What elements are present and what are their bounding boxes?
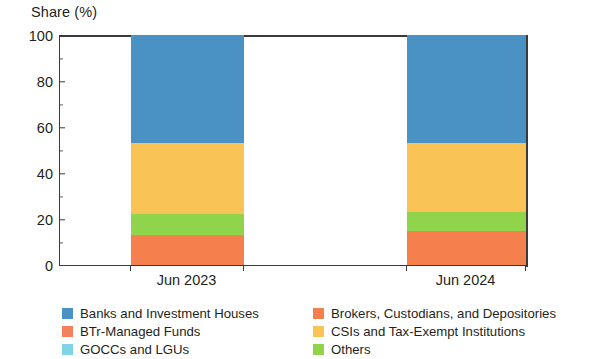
bar-jun-2024[interactable]: [407, 35, 526, 265]
legend-label: BTr-Managed Funds: [80, 325, 200, 338]
bar-segment[interactable]: [131, 143, 244, 214]
legend-row: BTr-Managed FundsCSIs and Tax-Exempt Ins…: [62, 322, 602, 340]
legend-row: Banks and Investment HousesBrokers, Cust…: [62, 304, 602, 322]
legend-swatch-icon: [313, 344, 324, 355]
x-tick-label: Jun 2024: [436, 272, 496, 288]
y-tick-label: 60: [7, 120, 53, 136]
legend-label: Banks and Investment Houses: [80, 307, 259, 320]
y-tick-label: 20: [7, 212, 53, 228]
legend-swatch-icon: [313, 326, 324, 337]
y-tick-label: 80: [7, 74, 53, 90]
legend-row: GOCCs and LGUsOthers: [62, 340, 602, 358]
stacked-bar-chart: Share (%) 100806040200 Jun 2023Jun 2024 …: [0, 0, 608, 359]
y-tick-label: 0: [7, 258, 53, 274]
x-tick-mark: [406, 266, 407, 271]
legend-item[interactable]: GOCCs and LGUs: [62, 340, 313, 358]
legend-item[interactable]: Others: [313, 340, 602, 358]
legend-label: Others: [331, 343, 371, 356]
bar-segment[interactable]: [131, 214, 244, 235]
legend-label: Brokers, Custodians, and Depositories: [331, 307, 556, 320]
bar-segment[interactable]: [407, 231, 526, 266]
y-axis-labels: 100806040200: [0, 0, 53, 359]
legend-item[interactable]: Banks and Investment Houses: [62, 304, 313, 322]
legend-item[interactable]: Brokers, Custodians, and Depositories: [313, 304, 602, 322]
x-tick-label: Jun 2023: [157, 272, 217, 288]
y-tick-label: 40: [7, 166, 53, 182]
legend-item[interactable]: CSIs and Tax-Exempt Institutions: [313, 322, 602, 340]
bar-segment[interactable]: [407, 212, 526, 230]
bar-segment[interactable]: [407, 35, 526, 143]
y-tick-label: 100: [7, 28, 53, 44]
bar-segment[interactable]: [131, 235, 244, 265]
legend-swatch-icon: [313, 308, 324, 319]
bar-segment[interactable]: [131, 35, 244, 143]
legend-swatch-icon: [62, 308, 73, 319]
plot-area: [59, 36, 527, 266]
x-tick-mark: [243, 266, 244, 271]
legend-swatch-icon: [62, 326, 73, 337]
bar-jun-2023[interactable]: [131, 35, 244, 265]
legend-swatch-icon: [62, 344, 73, 355]
bar-segment[interactable]: [407, 143, 526, 212]
legend-item[interactable]: BTr-Managed Funds: [62, 322, 313, 340]
legend-label: CSIs and Tax-Exempt Institutions: [331, 325, 525, 338]
x-tick-mark: [130, 266, 131, 271]
chart-legend: Banks and Investment HousesBrokers, Cust…: [62, 304, 602, 358]
x-tick-mark: [525, 266, 526, 271]
legend-label: GOCCs and LGUs: [80, 343, 189, 356]
